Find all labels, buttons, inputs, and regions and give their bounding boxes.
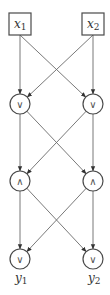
or-operator-icon: ∨ [16,254,23,265]
or-gate-g5: ∨ [10,249,30,269]
logic-network-diagram: x1x2∨∨∧∧∨∨y1y2 [0,0,110,295]
and-gate-g4: ∧ [83,171,103,191]
output-label-y2: y2 [87,271,101,286]
output-label-y1: y1 [14,271,28,286]
or-gate-g6: ∨ [83,249,103,269]
and-operator-icon: ∧ [89,176,96,187]
edges-layer [20,35,93,252]
or-operator-icon: ∨ [89,99,96,110]
nodes-layer: x1x2∨∨∧∧∨∨y1y2 [9,13,104,286]
or-operator-icon: ∨ [16,99,23,110]
and-operator-icon: ∧ [16,176,23,187]
edge-x1-to-g2 [20,35,86,97]
input-node-x1: x1 [9,13,31,35]
input-node-x2: x2 [82,13,104,35]
edge-x2-to-g1 [27,35,93,97]
or-gate-g1: ∨ [10,94,30,114]
and-gate-g3: ∧ [10,171,30,191]
or-operator-icon: ∨ [89,254,96,265]
or-gate-g2: ∨ [83,94,103,114]
